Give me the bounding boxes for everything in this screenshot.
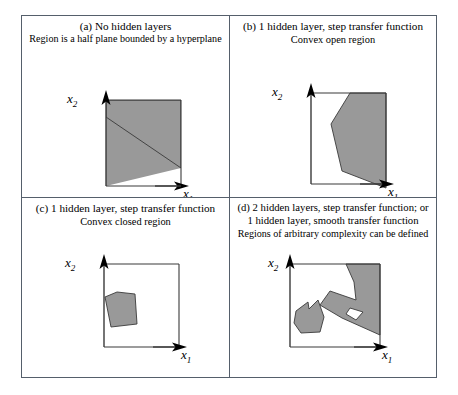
panel-a-captions: (a) No hidden layers Region is a half pl… xyxy=(22,19,229,46)
panel-c-x-axis-label: x1 xyxy=(181,347,191,365)
panel-d-x-axis-label: x1 xyxy=(382,347,392,365)
panel-d-region-small xyxy=(294,300,324,333)
panel-c: (c) 1 hidden layer, step transfer functi… xyxy=(22,197,229,378)
panel-d-region-large xyxy=(320,264,380,335)
panel-b-plot: x2 x1 xyxy=(290,78,402,186)
panel-d: (d) 2 hidden layers, step transfer funct… xyxy=(229,197,436,378)
panel-b-region xyxy=(331,93,386,188)
panel-a: (a) No hidden layers Region is a half pl… xyxy=(22,16,229,197)
panel-b: (b) 1 hidden layer, step transfer functi… xyxy=(229,16,436,197)
panel-a-caption-sub: Region is a half plane bounded by a hype… xyxy=(25,33,226,46)
panel-a-plot: x2 x1 xyxy=(85,85,195,190)
panel-d-captions: (d) 2 hidden layers, step transfer funct… xyxy=(230,201,436,241)
panel-c-region xyxy=(105,292,137,327)
panel-d-caption-main: (d) 2 hidden layers, step transfer funct… xyxy=(233,201,433,215)
panel-b-y-axis-label: x2 xyxy=(272,84,282,102)
panel-d-caption-main2: 1 hidden layer, smooth transfer function xyxy=(233,214,433,228)
panel-c-plot: x2 x1 xyxy=(83,249,195,357)
panel-grid: (a) No hidden layers Region is a half pl… xyxy=(22,16,436,377)
panel-d-diagram xyxy=(284,249,400,357)
panel-b-x-axis-label: x1 xyxy=(388,184,398,197)
panel-c-captions: (c) 1 hidden layer, step transfer functi… xyxy=(22,201,229,229)
panel-d-y-axis-label: x2 xyxy=(268,255,278,273)
panel-b-caption-sub: Convex open region xyxy=(233,33,433,46)
panel-c-y-axis-label: x2 xyxy=(65,255,75,273)
panel-b-diagram xyxy=(290,78,402,186)
panel-c-caption-sub: Convex closed region xyxy=(25,215,226,228)
panel-b-captions: (b) 1 hidden layer, step transfer functi… xyxy=(230,19,436,47)
panel-c-caption-main: (c) 1 hidden layer, step transfer functi… xyxy=(25,201,226,215)
panel-d-caption-sub: Regions of arbitrary complexity can be d… xyxy=(233,228,433,241)
panel-a-diagram xyxy=(85,85,195,190)
panel-a-caption-main: (a) No hidden layers xyxy=(25,19,226,33)
figure-frame: (a) No hidden layers Region is a half pl… xyxy=(21,15,437,378)
panel-c-diagram xyxy=(83,249,195,357)
panel-b-caption-main: (b) 1 hidden layer, step transfer functi… xyxy=(233,19,433,33)
panel-a-y-axis-label: x2 xyxy=(67,91,77,109)
panel-a-x-axis-label: x1 xyxy=(183,186,193,197)
panel-d-plot: x2 x1 xyxy=(284,249,400,357)
